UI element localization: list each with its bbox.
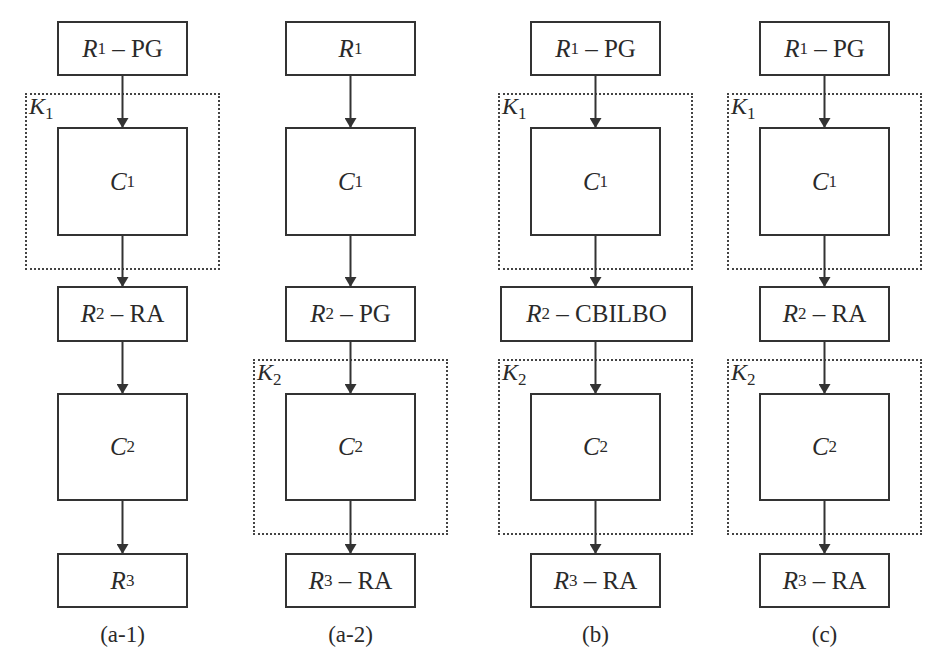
connector-arrows	[0, 0, 950, 668]
